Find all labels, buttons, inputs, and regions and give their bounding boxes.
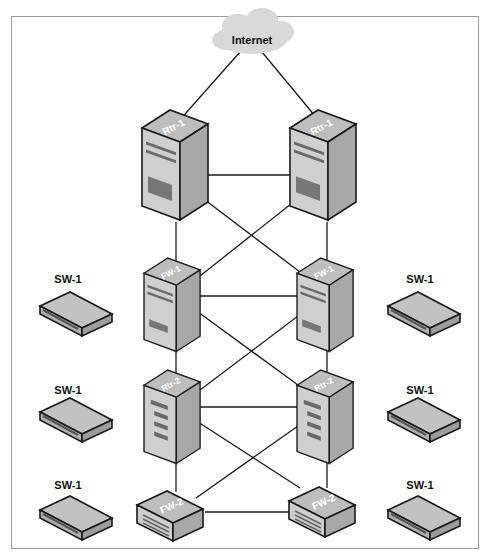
switch-label: SW-1 bbox=[54, 384, 81, 396]
internet-label: Internet bbox=[232, 34, 273, 46]
switch-left-1[interactable]: SW-1 bbox=[40, 273, 112, 336]
switch-right-3[interactable]: SW-1 bbox=[388, 479, 460, 540]
switch-label: SW-1 bbox=[406, 479, 433, 491]
cloud-icon bbox=[212, 8, 294, 54]
switch-label: SW-1 bbox=[406, 384, 433, 396]
router-rtr1-right[interactable]: Rtr-1 bbox=[290, 110, 356, 220]
link-rtr1-right-fw1-left bbox=[200, 200, 296, 276]
link-internet-rtr1-left bbox=[178, 52, 240, 122]
link-fw1-left-rtr2-right bbox=[198, 312, 298, 385]
link-internet-rtr1-right bbox=[262, 52, 320, 122]
network-diagram: Internet Rtr-1 Rtr-1 FW-1 bbox=[0, 0, 490, 558]
firewall-fw2-right[interactable]: FW-2 bbox=[289, 487, 355, 537]
link-rtr2-left-fw2-right bbox=[198, 422, 300, 488]
firewall-fw1-right[interactable]: FW-1 bbox=[297, 258, 353, 352]
switch-icon bbox=[388, 292, 460, 336]
switch-left-3[interactable]: SW-1 bbox=[40, 479, 112, 540]
switch-label: SW-1 bbox=[54, 479, 81, 491]
firewall-fw2-left[interactable]: FW-2 bbox=[137, 491, 203, 541]
link-fw1-right-rtr2-left bbox=[200, 316, 298, 390]
router-rtr2-left[interactable]: Rtr-2 bbox=[144, 370, 200, 464]
switch-label: SW-1 bbox=[406, 273, 433, 285]
switch-icon bbox=[40, 292, 112, 336]
switch-icon bbox=[40, 496, 112, 540]
switch-right-2[interactable]: SW-1 bbox=[388, 384, 460, 442]
switch-icon bbox=[40, 398, 112, 442]
firewall-fw1-left[interactable]: FW-1 bbox=[144, 258, 200, 352]
switch-icon bbox=[388, 496, 460, 540]
internet-cloud: Internet bbox=[212, 8, 294, 54]
switch-left-2[interactable]: SW-1 bbox=[40, 384, 112, 442]
switch-right-1[interactable]: SW-1 bbox=[388, 273, 460, 336]
switch-label: SW-1 bbox=[54, 273, 81, 285]
router-rtr1-left[interactable]: Rtr-1 bbox=[142, 110, 208, 220]
link-rtr2-right-fw2-left bbox=[196, 426, 298, 498]
router-rtr2-right[interactable]: Rtr-2 bbox=[297, 370, 353, 464]
switch-icon bbox=[388, 398, 460, 442]
